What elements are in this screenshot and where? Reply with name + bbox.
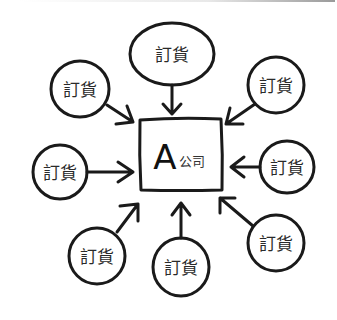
arrow-icon [220, 198, 253, 226]
node-top: 訂貨 [130, 23, 214, 114]
center-company-box: A 公司 [140, 118, 223, 190]
arrow-icon [163, 85, 181, 114]
node-lower-right: 訂貨 [220, 198, 304, 271]
arrow-icon [87, 162, 133, 182]
node-upper-left: 訂貨 [51, 61, 133, 124]
center-letter: A [153, 137, 176, 177]
node-label: 訂貨 [259, 234, 293, 254]
center-label: 公司 [179, 154, 205, 169]
node-label: 訂貨 [155, 45, 189, 65]
arrow-icon [107, 105, 133, 124]
node-upper-right: 訂貨 [226, 57, 304, 124]
node-label: 訂貨 [164, 258, 198, 278]
node-label: 訂貨 [43, 163, 77, 183]
node-label: 訂貨 [80, 247, 114, 267]
node-left: 訂貨 [33, 145, 133, 199]
arrow-icon [231, 157, 260, 177]
node-label: 訂貨 [63, 80, 97, 100]
node-right: 訂貨 [231, 141, 314, 193]
node-bottom: 訂貨 [153, 203, 209, 296]
arrow-icon [117, 204, 138, 232]
arrow-icon [226, 104, 255, 124]
node-lower-left: 訂貨 [69, 204, 138, 284]
order-flow-diagram: A 公司 訂貨 訂貨 訂貨 訂貨 訂貨 訂貨 訂貨 [0, 0, 337, 320]
node-label: 訂貨 [259, 76, 293, 96]
node-label: 訂貨 [270, 158, 304, 178]
arrow-icon [172, 203, 190, 238]
